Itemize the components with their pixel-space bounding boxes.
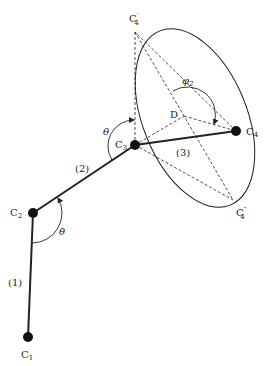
label-c4-double-prime: C″4	[236, 206, 247, 221]
label-theta-c2: θ	[59, 226, 65, 237]
node-c1	[23, 332, 33, 342]
label-d: D	[170, 109, 178, 120]
diagram-canvas: C1 C2 C3 C4 C′4 C″4 D (1) (2) (3) θ θ φ2	[0, 0, 265, 366]
label-c3: C3	[115, 139, 127, 152]
label-link-3: (3)	[176, 147, 190, 158]
link-1	[28, 213, 33, 337]
node-c3	[130, 140, 140, 150]
label-phi2: φ2	[182, 75, 194, 88]
node-c4	[231, 126, 241, 136]
link-3	[135, 131, 236, 145]
label-c4: C4	[246, 126, 259, 139]
label-c2: C2	[10, 207, 22, 220]
link-2	[33, 145, 135, 213]
rotation-ellipse	[112, 11, 265, 224]
node-c2	[28, 208, 38, 218]
label-c1: C1	[21, 349, 33, 362]
construction-lines	[135, 32, 236, 200]
label-theta-c3: θ	[103, 126, 109, 137]
label-link-1: (1)	[8, 277, 22, 288]
label-link-2: (2)	[75, 163, 89, 174]
label-c4-prime: C′4	[129, 12, 139, 27]
